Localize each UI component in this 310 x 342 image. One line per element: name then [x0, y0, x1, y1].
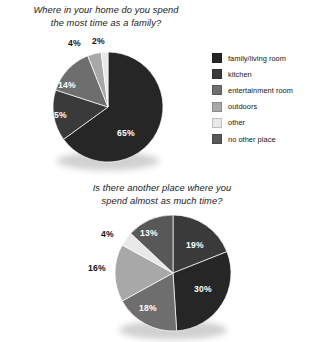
legend-label-kitchen: kitchen — [228, 70, 252, 79]
legend-label-outdoors: outdoors — [228, 102, 257, 111]
pie-2-slice-label-kitchen: 19% — [186, 240, 204, 250]
legend-swatch-icon-family-living-room — [212, 53, 222, 63]
pie-1-slice-label-other: 2% — [92, 36, 105, 46]
pie-2-slice-label-family-living-room: 30% — [194, 284, 212, 294]
pie-1-slice-label-entertainment-room: 14% — [58, 80, 76, 90]
chart-1-title-line-2: the most time as a family? — [8, 17, 204, 30]
pie-2-slice-label-outdoors: 16% — [88, 263, 106, 273]
legend-item-outdoors: outdoors — [212, 99, 308, 115]
legend-label-other: other — [228, 118, 245, 127]
legend-swatch-icon-entertainment-room — [212, 85, 222, 95]
chart-1-title-line-1: Where in your home do you spend — [8, 4, 204, 17]
legend-item-no-other-place: no other place — [212, 131, 308, 147]
pie-1-slice-label-family-living-room: 65% — [117, 128, 135, 138]
legend: family/living room kitchen entertainment… — [212, 50, 308, 147]
legend-item-kitchen: kitchen — [212, 66, 308, 82]
pie-2-slice-label-entertainment-room: 18% — [139, 303, 157, 313]
legend-swatch-icon-kitchen — [212, 69, 222, 79]
pie-2-slice-label-no-other-place: 13% — [140, 228, 158, 238]
chart-1-title: Where in your home do you spend the most… — [8, 4, 204, 29]
pie-chart-1-svg — [52, 51, 164, 163]
pie-chart-2 — [114, 214, 232, 332]
legend-label-no-other-place: no other place — [228, 135, 276, 144]
legend-item-family-living-room: family/living room — [212, 50, 308, 66]
legend-label-family-living-room: family/living room — [228, 54, 286, 63]
pie-chart-1 — [52, 51, 164, 163]
chart-2-title-line-2: spend almost as much time? — [56, 195, 268, 208]
pie-1-slice-label-kitchen: 15% — [49, 110, 67, 120]
pie-1-slice-label-outdoors: 4% — [68, 38, 81, 48]
legend-swatch-icon-other — [212, 118, 222, 128]
legend-swatch-icon-outdoors — [212, 102, 222, 112]
legend-item-entertainment-room: entertainment room — [212, 82, 308, 98]
figure-root: Where in your home do you spend the most… — [0, 0, 310, 342]
legend-label-entertainment-room: entertainment room — [228, 86, 293, 95]
legend-swatch-icon-no-other-place — [212, 134, 222, 144]
pie-chart-2-svg — [114, 214, 232, 332]
chart-2-title-line-1: Is there another place where you — [56, 182, 268, 195]
legend-item-other: other — [212, 115, 308, 131]
chart-2-title: Is there another place where you spend a… — [56, 182, 268, 207]
pie-2-slice-label-other: 4% — [101, 229, 114, 239]
